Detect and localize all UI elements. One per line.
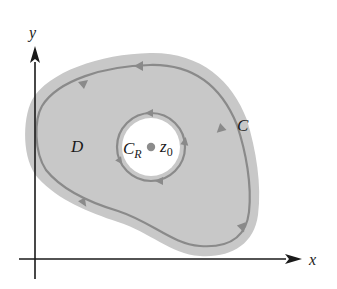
- point-label-z0-sub: 0: [167, 145, 173, 159]
- contour-label-cr-main: C: [123, 139, 135, 158]
- x-axis-label: x: [308, 251, 316, 268]
- y-axis-label: y: [27, 24, 37, 42]
- region-label-d: D: [70, 137, 84, 156]
- point-z0: [147, 143, 155, 151]
- contour-diagram: y x D C CR z0: [0, 0, 337, 289]
- x-axis-arrow-icon: [285, 254, 302, 264]
- y-axis-arrow-icon: [30, 46, 40, 63]
- contour-label-cr-sub: R: [133, 147, 142, 161]
- contour-label-c: C: [237, 116, 249, 135]
